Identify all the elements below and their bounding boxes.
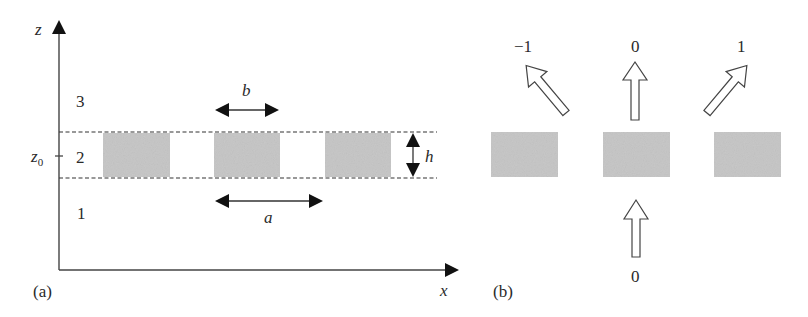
period-a-arrow <box>215 194 323 208</box>
incident-order-label: 0 <box>631 268 640 285</box>
z0-label: z0 <box>31 148 43 168</box>
region-2-label: 2 <box>76 149 85 166</box>
panel-a-caption: (a) <box>33 283 52 300</box>
x-axis-label: x <box>440 282 448 299</box>
panel-b <box>491 58 781 257</box>
panel-b-caption: (b) <box>493 283 513 300</box>
period-a-label: a <box>264 209 273 226</box>
x-axis-arrowhead-icon <box>445 263 459 277</box>
incident-arrow-icon <box>624 200 648 257</box>
arrowhead-left-icon <box>215 194 229 208</box>
region-3-label: 3 <box>76 93 85 110</box>
grating-block <box>214 133 280 177</box>
z-axis-arrowhead-icon <box>52 20 66 34</box>
grating-block <box>103 133 170 177</box>
z-axis-label: z <box>35 21 42 38</box>
grating-block <box>603 132 670 177</box>
diffracted-order-minus1-arrow-icon <box>517 58 575 121</box>
diagram-canvas <box>0 0 808 317</box>
width-b-arrow <box>215 103 279 117</box>
arrowhead-up-icon <box>406 133 420 147</box>
arrowhead-down-icon <box>406 163 420 177</box>
grating-block <box>714 132 781 177</box>
order-1-label: 1 <box>737 38 746 55</box>
grating-blocks-a <box>103 133 391 177</box>
diffracted-order-1-arrow-icon <box>698 58 756 121</box>
grating-blocks-b <box>491 132 781 177</box>
height-h-arrow <box>406 133 420 177</box>
panel-a <box>52 20 459 277</box>
grating-block <box>325 133 391 177</box>
z0-label-subscript: 0 <box>38 156 44 168</box>
z-axis <box>52 20 66 270</box>
z0-label-base: z <box>31 147 38 166</box>
order-minus1-label: −1 <box>514 38 532 55</box>
diffracted-order-0-arrow-icon <box>623 62 647 120</box>
arrowhead-right-icon <box>265 103 279 117</box>
arrowhead-left-icon <box>215 103 229 117</box>
width-b-label: b <box>242 82 251 99</box>
region-1-label: 1 <box>77 205 86 222</box>
arrowhead-right-icon <box>309 194 323 208</box>
x-axis <box>59 263 459 277</box>
grating-block <box>491 132 558 177</box>
height-h-label: h <box>425 148 434 165</box>
order-0-top-label: 0 <box>631 38 640 55</box>
